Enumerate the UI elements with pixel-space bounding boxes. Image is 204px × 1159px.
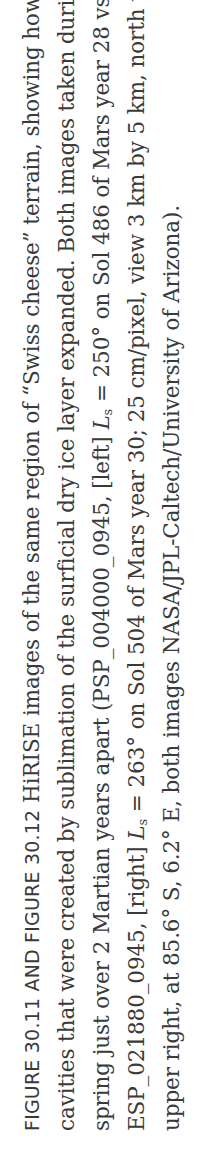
caption-text-4b: = 263° on Sol 504 of Mars year 30; 25 cm… — [124, 0, 149, 819]
figure-label: FIGURE 30.11 AND FIGURE 30.12 — [21, 810, 43, 1131]
caption-line-4: ESP_021880_0945, [right] Ls = 263° on So… — [119, 6, 154, 1131]
caption-text-3: spring just over 2 Martian years apart (… — [89, 430, 114, 1131]
caption-line-2: cavities that were created by sublimatio… — [49, 6, 84, 1131]
caption-text-3b: = 250° on Sol 486 of Mars year 28 vs. — [89, 0, 114, 409]
caption-text-4: ESP_021880_0945, [right] — [124, 840, 149, 1131]
figure-caption: FIGURE 30.11 AND FIGURE 30.12 HiRISE ima… — [14, 6, 189, 1131]
ls-symbol: L — [89, 415, 114, 429]
ls-subscript: s — [135, 819, 150, 826]
rotated-page: FIGURE 30.11 AND FIGURE 30.12 HiRISE ima… — [0, 0, 204, 1159]
caption-text-1: HiRISE images of the same region of “Swi… — [19, 0, 44, 803]
caption-line-1: FIGURE 30.11 AND FIGURE 30.12 HiRISE ima… — [14, 6, 49, 1131]
ls-symbol: L — [124, 825, 149, 839]
caption-line-3: spring just over 2 Martian years apart (… — [84, 6, 119, 1131]
ls-subscript: s — [100, 409, 115, 416]
caption-line-5: upper right, at 85.6° S, 6.2° E, both im… — [154, 6, 189, 1131]
